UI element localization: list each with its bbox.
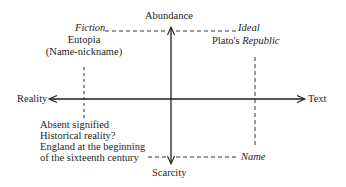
sixteenth-century-line: of the sixteenth century: [40, 152, 145, 163]
platos-label: Plato's: [212, 35, 240, 46]
name-nickname-label: (Name-nickname): [44, 46, 124, 57]
ideal-label: Ideal: [238, 22, 260, 33]
utopia-semiotic-diagram: Abundance Scarcity Reality Text Fiction …: [0, 0, 346, 187]
england-line: England at the beginning: [40, 141, 145, 152]
absent-signified-line: Absent signified: [40, 119, 145, 130]
fiction-label: Fiction: [75, 22, 105, 33]
historical-reality-text-block: Absent signified Historical reality? Eng…: [40, 119, 145, 163]
abundance-label: Abundance: [145, 10, 193, 21]
scarcity-label: Scarcity: [152, 167, 186, 178]
republic-label: Republic: [242, 35, 279, 46]
text-label: Text: [308, 93, 327, 104]
name-label: Name: [241, 151, 266, 162]
eutopia-label: Eutopia: [44, 34, 124, 45]
platos-republic-label: Plato's Republic: [212, 35, 280, 46]
vertical-axis: [168, 27, 175, 164]
horizontal-axis: [49, 96, 305, 103]
reality-label: Reality: [17, 93, 47, 104]
historical-reality-line: Historical reality?: [40, 130, 145, 141]
